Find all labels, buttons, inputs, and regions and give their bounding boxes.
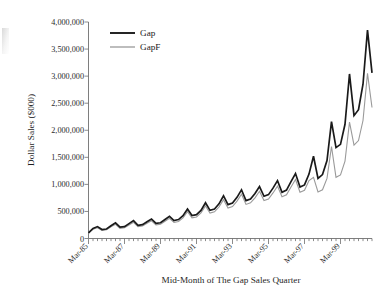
- y-tick-label: 4,000,000: [51, 18, 84, 27]
- x-tick-label: Mar-97: [282, 242, 306, 266]
- line-chart: Dollar Sales ($000) 0500,0001,000,0001,5…: [0, 0, 379, 298]
- x-tick-label: Mar-95: [246, 242, 270, 266]
- x-tick-label: Mar-93: [210, 242, 234, 266]
- legend-label-gap: Gap: [140, 28, 156, 38]
- x-tick-label: Mar-99: [318, 242, 342, 266]
- series-lines: [89, 30, 373, 233]
- y-tick-label: 1,500,000: [51, 153, 84, 162]
- y-tick-marks: [85, 22, 89, 239]
- y-axis-title: Dollar Sales ($000): [26, 94, 36, 166]
- x-axis-title: Mid-Month of The Gap Sales Quarter: [162, 275, 301, 285]
- series-line-gapf: [89, 73, 373, 233]
- y-tick-label: 1,000,000: [51, 180, 84, 189]
- x-tick-labels: Mar-85Mar-87Mar-89Mar-91Mar-93Mar-95Mar-…: [66, 242, 342, 266]
- y-tick-label: 500,000: [57, 207, 84, 216]
- x-tick-marks: [89, 239, 373, 245]
- chart-figure: Dollar Sales ($000) 0500,0001,000,0001,5…: [0, 0, 379, 298]
- series-line-gap: [89, 30, 373, 233]
- x-tick-label: Mar-85: [66, 242, 90, 266]
- chart-legend: Gap GapF: [110, 28, 160, 52]
- y-tick-label: 2,500,000: [51, 99, 84, 108]
- x-tick-label: Mar-87: [102, 242, 126, 266]
- y-tick-label: 3,500,000: [51, 45, 84, 54]
- legend-label-gapf: GapF: [140, 42, 160, 52]
- x-tick-label: Mar-91: [174, 242, 198, 266]
- y-tick-label: 3,000,000: [51, 72, 84, 81]
- y-tick-label: 2,000,000: [51, 126, 84, 135]
- y-tick-labels: 0500,0001,000,0001,500,0002,000,0002,500…: [51, 18, 84, 244]
- x-tick-label: Mar-89: [138, 242, 162, 266]
